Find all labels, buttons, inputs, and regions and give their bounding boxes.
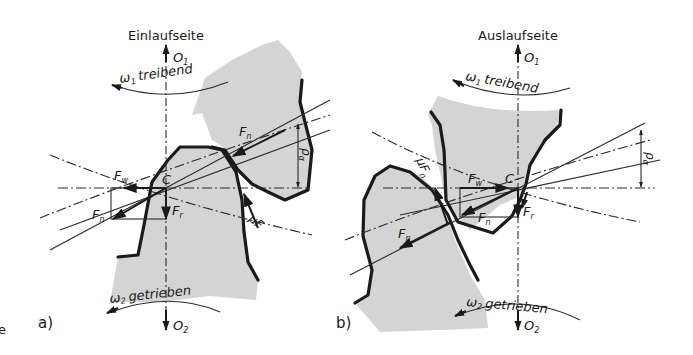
panel-b: Auslaufseite O1 ω1treibend μFn Fw C Fn F…	[336, 28, 660, 335]
axis-o2-label-b: O2	[524, 318, 539, 335]
pitch-point-c-b: C	[505, 171, 515, 186]
force-fn-lower-label-a: Fn	[92, 207, 105, 224]
gear-force-diagram: Einlaufseite O1 ω1treibend Fn Fw C Fn Fr…	[0, 0, 693, 355]
edge-text-fragment: e	[0, 322, 6, 337]
driving-gear-tooth-b	[428, 96, 560, 230]
side-title-b: Auslaufseite	[478, 28, 558, 43]
side-title-a: Einlaufseite	[128, 28, 204, 43]
axis-o2-label-a: O2	[173, 318, 188, 335]
rotation-arrow-top-b	[453, 80, 464, 86]
force-fw-label-a: Fw	[114, 168, 128, 185]
pitch-point-c-a: C	[162, 172, 172, 187]
dimension-rho-label-b: ρα	[641, 152, 657, 166]
force-fr-label-b: Fr	[523, 204, 534, 221]
axis-o1-label-b: O1	[524, 50, 539, 67]
rotation-label-top-a: ω1treibend	[118, 61, 194, 88]
panel-a: Einlaufseite O1 ω1treibend Fn Fw C Fn Fr…	[38, 28, 330, 335]
friction-label-a: μF	[245, 211, 267, 232]
panel-label-a: a)	[38, 314, 53, 332]
panel-label-b: b)	[336, 314, 351, 332]
